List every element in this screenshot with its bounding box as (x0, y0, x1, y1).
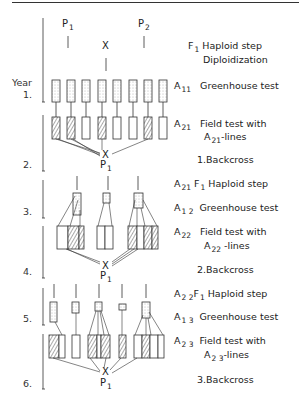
backcross-3-cross: X (102, 366, 109, 377)
stage-a21-f1-haploid: A21 F1 Haploid step (174, 178, 268, 190)
year-label: Year (4, 77, 32, 88)
parent-p2-label: P2 (138, 18, 150, 30)
stage-a23-field: A2 3 Field test with (174, 335, 266, 347)
backcross-2-parent: P1 (100, 270, 112, 282)
stage-backcross-1: 1.Backcross (197, 154, 254, 165)
stage-a21-lines: A21-lines (204, 131, 247, 143)
backcross-1-parent: P1 (100, 159, 112, 171)
stage-backcross-3: 3.Backcross (197, 374, 254, 385)
stage-a11-greenhouse: A11 Greenhouse test (174, 80, 279, 92)
stage-a22-f1-haploid: A2 2F1 Haploid step (174, 288, 267, 300)
stage-a21-field: A21 Field test with (174, 118, 266, 130)
stage-a13-greenhouse: A1 3 Greenhouse test (174, 311, 278, 323)
stage-a22-lines: A22 -lines (204, 240, 250, 252)
year-1: 1. (4, 89, 32, 100)
backcross-3-parent: P1 (100, 377, 112, 389)
parent-p1-label: P1 (62, 18, 74, 30)
cross-symbol: X (102, 40, 109, 51)
year-2: 2. (4, 159, 32, 170)
year-6: 6. (4, 378, 32, 389)
year-5: 5. (4, 313, 32, 324)
year-4: 4. (4, 266, 32, 277)
stage-f1-diploidization: Diploidization (203, 54, 268, 65)
stage-a12-greenhouse: A1 2 Greenhouse test (174, 202, 278, 214)
stage-a22-field: A22 Field test with (174, 226, 266, 238)
stage-a23-lines: A2 3-lines (204, 349, 249, 361)
stage-f1-haploid: F1 Haploid step (188, 40, 262, 52)
year-3: 3. (4, 206, 32, 217)
stage-backcross-2: 2.Backcross (197, 264, 254, 275)
